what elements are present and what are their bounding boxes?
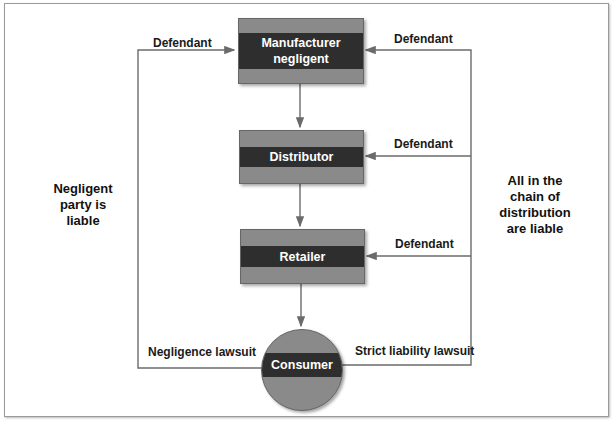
- consumer-label: Consumer: [262, 353, 342, 377]
- retailer-label: Retailer: [241, 246, 364, 267]
- manufacturer-label: Manufacturer negligent: [239, 33, 363, 69]
- distributor-defendant-label: Defendant: [394, 137, 453, 151]
- retailer-node: Retailer: [240, 229, 365, 284]
- retailer-defendant-label: Defendant: [395, 237, 454, 251]
- strict-liability-lawsuit-label: Strict liability lawsuit: [355, 344, 474, 358]
- distributor-label: Distributor: [240, 147, 363, 167]
- left-defendant-label: Defendant: [153, 36, 212, 50]
- manufacturer-node: Manufacturer negligent: [238, 18, 364, 84]
- left-side-note: Negligent party is liable: [48, 181, 118, 229]
- negligence-lawsuit-label: Negligence lawsuit: [148, 345, 256, 359]
- consumer-node: Consumer: [261, 329, 343, 411]
- manufacturer-defendant-label: Defendant: [394, 32, 453, 46]
- right-side-note: All in the chain of distribution are lia…: [480, 173, 590, 237]
- distributor-node: Distributor: [239, 130, 364, 184]
